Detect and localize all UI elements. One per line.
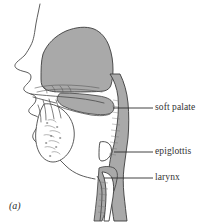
epiglottis-shape <box>99 142 112 161</box>
figure-caption: (a) <box>9 200 21 211</box>
figure-container: soft palate epiglottis larynx (a) <box>0 0 212 223</box>
label-soft-palate: soft palate <box>155 102 195 112</box>
label-larynx: larynx <box>155 172 180 182</box>
label-epiglottis: epiglottis <box>155 146 191 156</box>
tongue-outline <box>36 104 75 162</box>
